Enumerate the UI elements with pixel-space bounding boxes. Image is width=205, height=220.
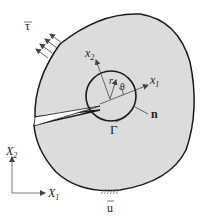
traction-label: τ [25,19,30,33]
displacement-label: u [107,201,113,215]
normal-label: n [151,107,158,121]
contour-label: Γ [110,122,118,137]
radius-label: r [109,75,113,86]
angle-label: θ [120,81,125,92]
global-X1-label: X1 [47,186,59,202]
global-X2-label: X2 [5,144,17,160]
fracture-diagram: τ x2 x1 r θ n Γ X2 X1 u [0,0,205,220]
